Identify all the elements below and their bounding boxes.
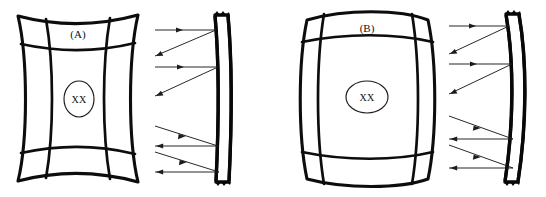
panel-b-region-label: XX (360, 92, 375, 103)
panel-a-membrane (214, 11, 231, 186)
panel-a-label: (A) (70, 28, 86, 41)
panel-a-region-label: XX (72, 94, 87, 105)
panel-b-label: (B) (360, 22, 375, 35)
figure-canvas: (A) XX (0, 0, 546, 197)
figure-container: (A) XX (0, 0, 546, 197)
panel-a-region-marker: XX (64, 81, 94, 117)
panel-b-region-marker: XX (346, 81, 388, 113)
